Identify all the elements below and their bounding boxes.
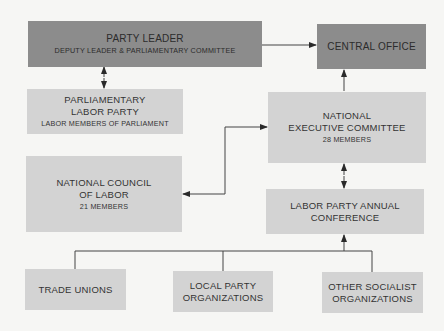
nec-title-line1: NATIONAL xyxy=(323,110,371,122)
conference-title-line2: CONFERENCE xyxy=(311,212,380,224)
central-office-title: CENTRAL OFFICE xyxy=(327,41,416,53)
plp-title-line2: LABOR PARTY xyxy=(71,106,139,118)
node-central-office: CENTRAL OFFICE xyxy=(317,24,426,69)
local-party-title-line2: ORGANIZATIONS xyxy=(183,292,264,304)
local-party-title-line1: LOCAL PARTY xyxy=(190,280,256,292)
other-socialist-title-line2: ORGANIZATIONS xyxy=(332,293,413,305)
node-parliamentary-labor-party: PARLIAMENTARY LABOR PARTY LABOR MEMBERS … xyxy=(27,89,183,134)
ncl-title-line1: NATIONAL COUNCIL xyxy=(56,177,151,189)
conference-title-line1: LABOR PARTY ANNUAL xyxy=(290,200,400,212)
node-party-leader: PARTY LEADER DEPUTY LEADER & PARLIAMENTA… xyxy=(28,21,262,67)
node-trade-unions: TRADE UNIONS xyxy=(25,269,126,310)
party-leader-subtitle: DEPUTY LEADER & PARLIAMENTARY COMMITTEE xyxy=(55,45,236,56)
party-leader-title: PARTY LEADER xyxy=(106,33,183,45)
node-national-executive-committee: NATIONAL EXECUTIVE COMMITTEE 28 MEMBERS xyxy=(268,92,426,163)
connector-ncl-nec xyxy=(190,127,260,194)
ncl-subtitle: 21 MEMBERS xyxy=(80,201,128,212)
plp-subtitle: LABOR MEMBERS OF PARLIAMENT xyxy=(41,118,168,129)
node-annual-conference: LABOR PARTY ANNUAL CONFERENCE xyxy=(266,189,424,234)
nec-title-line2: EXECUTIVE COMMITTEE xyxy=(288,122,405,134)
node-national-council-of-labor: NATIONAL COUNCIL OF LABOR 21 MEMBERS xyxy=(26,156,182,232)
node-local-party-organizations: LOCAL PARTY ORGANIZATIONS xyxy=(173,271,273,312)
ncl-title-line2: OF LABOR xyxy=(79,189,129,201)
nec-subtitle: 28 MEMBERS xyxy=(323,134,371,145)
node-other-socialist-organizations: OTHER SOCIALIST ORGANIZATIONS xyxy=(322,272,423,313)
other-socialist-title-line1: OTHER SOCIALIST xyxy=(328,281,417,293)
plp-title-line1: PARLIAMENTARY xyxy=(64,94,145,106)
trade-unions-title: TRADE UNIONS xyxy=(38,284,112,296)
